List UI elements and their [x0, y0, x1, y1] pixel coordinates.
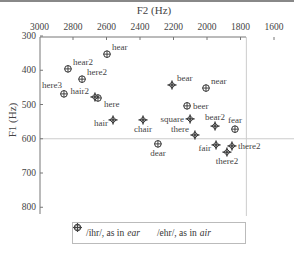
legend-word-air: air [200, 228, 211, 238]
circle-plus-marker-icon [103, 51, 110, 58]
point-label: square [161, 114, 185, 124]
x-axis-title: F2 (Hz) [137, 4, 172, 17]
point-label: hair [94, 118, 108, 128]
x-tick-label: 2000 [198, 22, 217, 32]
y-tick-label: 800 [22, 202, 37, 212]
legend-label-ihr: /ihr/, as in [86, 228, 124, 238]
x-tick-label: 2400 [131, 22, 150, 32]
x-tick-label: 2800 [64, 22, 83, 32]
point-label: bear2 [205, 112, 225, 122]
circle-plus-marker-icon [202, 84, 209, 91]
y-tick-label: 600 [22, 134, 37, 144]
point-label: chair [134, 124, 152, 134]
diamond-plus-marker-icon [190, 130, 199, 139]
point-label: here [104, 99, 120, 109]
circle-plus-marker-icon [60, 90, 67, 97]
point-label: hear [112, 42, 128, 52]
point-label: bear [177, 73, 193, 83]
point-label: here2 [87, 67, 107, 77]
y-tick-label: 500 [22, 100, 37, 110]
point-label: fear [228, 115, 242, 125]
legend-label-ehr: /ehr/, as in [157, 228, 197, 238]
diamond-plus-marker-icon [186, 114, 195, 123]
legend: /ihr/, as inear /ehr/, as inair [72, 222, 246, 244]
point-label: here3 [42, 80, 62, 90]
point-label: there2 [216, 156, 239, 166]
point-label: hear2 [73, 57, 93, 67]
circle-plus-marker-icon [183, 102, 190, 109]
x-tick-label: 1600 [265, 22, 284, 32]
circle-plus-marker-icon [78, 76, 85, 83]
circle-plus-marker-icon [64, 65, 71, 72]
point-label: hair2 [70, 86, 89, 96]
y-axis-title: F1 (Hz) [6, 102, 19, 137]
point-label: dear [150, 148, 166, 158]
formant-scatter-chart: 3000280026002400220020001800160030040050… [0, 0, 294, 256]
point-label: fair [199, 143, 212, 153]
diamond-plus-marker-icon [212, 140, 221, 149]
y-tick-label: 400 [22, 65, 37, 75]
point-label: near [211, 76, 227, 86]
legend-item-ihr: /ihr/, as inear [81, 228, 140, 238]
x-tick-label: 2600 [97, 22, 116, 32]
y-tick-label: 700 [22, 168, 37, 178]
diamond-plus-marker-icon [211, 122, 220, 131]
x-tick-label: 1800 [231, 22, 250, 32]
diamond-plus-marker-icon [109, 115, 118, 124]
circle-plus-marker-icon [231, 126, 238, 133]
point-label: there [171, 124, 189, 134]
legend-item-ehr: /ehr/, as inair [152, 228, 211, 238]
y-tick-label: 300 [22, 31, 37, 41]
legend-word-ear: ear [127, 228, 140, 238]
circle-plus-marker-icon [154, 140, 161, 147]
diamond-plus-marker-icon [167, 80, 176, 89]
point-label: beer [193, 101, 209, 111]
point-label: there2 [238, 141, 261, 151]
x-tick-label: 2200 [164, 22, 183, 32]
diamond-plus-marker-icon [227, 141, 236, 150]
